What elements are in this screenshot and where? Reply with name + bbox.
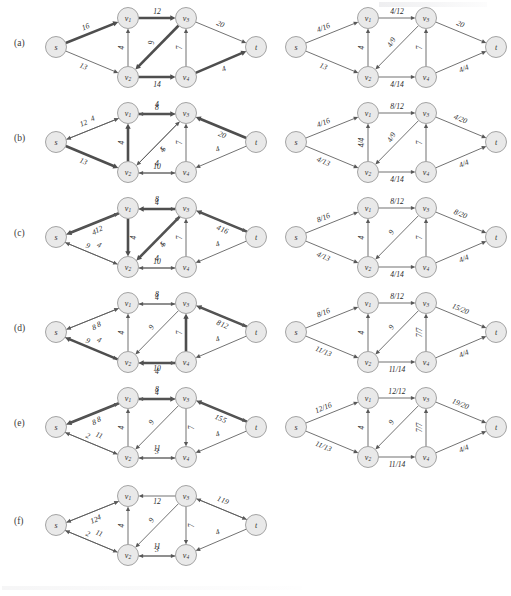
arrowhead-v1-to-v2 <box>125 251 130 256</box>
graph-node-label-s: s <box>294 327 297 336</box>
edge-label-v2-v1: 4 <box>357 45 366 49</box>
arrowhead-v1-to-v3 <box>411 301 416 305</box>
flow-network-b-right: 4/164/138/124/44/94/1474/204/4sv1v2v3v4t <box>278 95 511 190</box>
edge-t-to-v4 <box>199 146 246 166</box>
edge-v3-to-v2 <box>138 25 179 66</box>
edge-s-to-v1 <box>306 118 355 138</box>
graph-node-v4: v4 <box>416 352 437 373</box>
graph-node-s: s <box>46 417 67 438</box>
arrowhead-v1-to-v3 <box>411 111 416 115</box>
edge-label-v4-t: 4/4 <box>458 158 471 170</box>
edge-t-to-v4 <box>199 336 246 356</box>
edge-label-s-v2: 2 <box>84 431 91 441</box>
edge-v3-to-v2 <box>378 215 419 256</box>
edge-label-v2-v4: 4/14 <box>390 270 404 279</box>
graph-node-s: s <box>46 227 67 248</box>
edge-label-v4-v3: 7 <box>415 234 424 239</box>
arrowhead-v2-to-v1 <box>126 507 130 512</box>
edge-label-s-v1: 4/16 <box>315 21 331 34</box>
edge-s-to-v2 <box>306 51 355 71</box>
edge-label-v4-v3: 7 <box>175 44 184 49</box>
graph-node-v2: v2 <box>358 352 379 373</box>
graph-node-t: t <box>486 417 507 438</box>
edge-label-v4-v3: 7 <box>415 139 424 144</box>
arrowhead-v2-to-v1 <box>126 409 130 414</box>
edge-label-v1-v3: 4/12 <box>390 7 404 16</box>
arrowhead-v2-to-v4 <box>171 361 176 365</box>
edge-label-s-v2: 9 <box>84 336 91 346</box>
edge-s-to-v1 <box>306 213 355 233</box>
edge-label-v2-v4: 4 <box>155 367 159 376</box>
arrowhead-v1-to-v3 <box>170 15 175 20</box>
graph-node-v2: v2 <box>118 67 139 88</box>
graph-node-v2: v2 <box>358 67 379 88</box>
graph-node-v3: v3 <box>416 198 437 219</box>
arrowhead-v4-to-v3 <box>424 409 428 414</box>
edge-label-s-v1: 8/16 <box>315 306 331 319</box>
graph-node-label-s: s <box>294 137 297 146</box>
graph-node-v1: v1 <box>118 8 139 29</box>
flow-network-c-right: 8/164/138/12494/1478/204/4sv1v2v3v4t <box>278 190 511 285</box>
edge-label-v4-v3: 7 <box>415 44 424 49</box>
arrowhead-v4-to-v2 <box>139 266 144 270</box>
edge-label-v2-v1: 4 <box>117 45 126 49</box>
edge-label-v4-v2: 4 <box>155 159 159 168</box>
graph-node-v1: v1 <box>118 388 139 409</box>
edge-label-v4-v2: 11 <box>153 542 160 551</box>
graph-node-v4: v4 <box>176 545 197 566</box>
edge-label-t-v4: 4 <box>214 429 221 439</box>
edge-label-s-v1: 8/16 <box>315 211 331 224</box>
edge-label-t-v3: 20 <box>217 129 228 140</box>
arrowhead-v4-to-v3 <box>183 314 188 319</box>
graph-node-v2: v2 <box>358 257 379 278</box>
graph-node-t: t <box>246 417 267 438</box>
edge-label-v1-v3: 8/12 <box>390 197 404 206</box>
edge-label-v1-s: 8 <box>95 319 102 329</box>
edge-label-v4-t: 4/4 <box>458 253 471 265</box>
graph-node-v1: v1 <box>358 8 379 29</box>
graph-node-v1: v1 <box>358 388 379 409</box>
graph-node-label-s: s <box>54 232 57 241</box>
graph-node-t: t <box>246 515 267 536</box>
graph-node-v1: v1 <box>358 293 379 314</box>
edge-label-v4-v3: 7 <box>175 329 184 334</box>
edge-s-to-v1 <box>66 23 115 43</box>
edge-label-v2-v1: 4 <box>357 235 366 239</box>
row-label: (d) <box>14 323 25 333</box>
edge-label-v4-v3: 7 <box>175 139 184 144</box>
edge-label-v4-t: 4/4 <box>458 348 471 360</box>
edge-label-v2-v1: 4 <box>117 523 126 527</box>
arrowhead-v3-to-v1 <box>139 397 144 401</box>
edge-label-v4-v2: 11 <box>153 444 160 453</box>
edge-label-v2-s: 4 <box>96 240 103 250</box>
arrowhead-v4-to-v2 <box>139 456 144 460</box>
edge-v3-to-v2 <box>378 120 419 161</box>
flow-network-c-left: 124944844510471644sv1v2v3v4t <box>38 190 288 285</box>
edge-label-v4-v3: 7/7 <box>415 326 424 337</box>
graph-node-v1: v1 <box>358 103 379 124</box>
edge-label-s-v1: 16 <box>80 21 91 32</box>
arrowhead-v4-to-v3 <box>184 29 188 34</box>
arrowhead-v3-to-v4 <box>184 442 188 447</box>
graph-node-label-s: s <box>54 327 57 336</box>
edge-label-s-v2: 4/13 <box>315 250 331 264</box>
flow-network-b-left: 12413844451047204sv1v2v3v4t <box>38 95 288 190</box>
edge-label-v2-v1: 4 <box>357 330 366 334</box>
arrowhead-v2-to-v4 <box>411 455 416 459</box>
arrowhead-v4-to-v3 <box>184 219 188 224</box>
edge-label-v3-t: 8/20 <box>452 207 468 221</box>
graph-node-v1: v1 <box>118 293 139 314</box>
graph-node-v4: v4 <box>416 257 437 278</box>
graph-node-v1: v1 <box>118 103 139 124</box>
edge-label-v3-v2: 9 <box>387 228 397 236</box>
edge-label-v4-t: 4/4 <box>458 63 471 75</box>
edge-v3-to-v2 <box>138 405 179 446</box>
graph-node-v3: v3 <box>176 388 197 409</box>
edge-s-to-v1 <box>306 23 355 43</box>
edge-label-s-v1: 12 <box>78 117 89 128</box>
edge-label-v3-v2: 9 <box>147 418 157 426</box>
arrowhead-v4-to-v2 <box>139 554 144 558</box>
edge-label-v3-v1: 8 <box>155 290 159 299</box>
graph-node-t: t <box>486 227 507 248</box>
edge-label-v2-v1: 4/4 <box>357 137 366 147</box>
